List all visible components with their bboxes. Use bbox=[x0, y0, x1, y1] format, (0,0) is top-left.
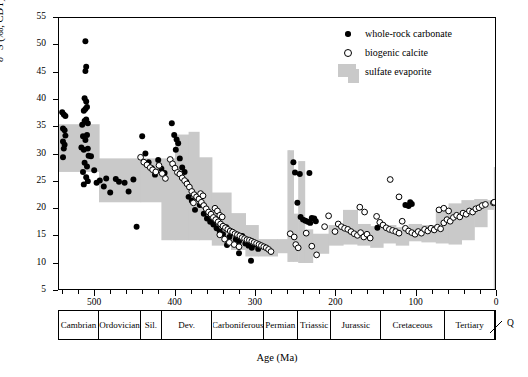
x-axis-tick-mark bbox=[142, 290, 143, 294]
evaporite-vertical-bar bbox=[494, 167, 495, 289]
period-cell-cretaceous: Cretaceous bbox=[381, 311, 444, 339]
data-point-filled bbox=[409, 201, 415, 207]
data-point-filled bbox=[81, 108, 87, 114]
x-axis-tick-mark bbox=[223, 290, 224, 294]
data-point-open bbox=[483, 202, 489, 208]
data-point-filled bbox=[290, 159, 296, 165]
period-cell-tertiary: Tertiary bbox=[445, 311, 496, 339]
x-axis-tick-mark bbox=[287, 290, 288, 294]
data-point-filled bbox=[91, 167, 97, 173]
y-axis-label-suffix: S (‰, CDT) bbox=[0, 0, 5, 50]
data-point-filled bbox=[139, 133, 145, 139]
period-cell-jurassic: Jurassic bbox=[331, 311, 381, 339]
data-point-filled bbox=[82, 137, 88, 143]
x-axis-tick-mark bbox=[126, 290, 127, 294]
data-point-filled bbox=[81, 147, 87, 153]
data-point-open bbox=[362, 209, 368, 215]
x-axis-tick-mark bbox=[94, 290, 95, 296]
data-point-filled bbox=[306, 170, 312, 176]
data-point-open bbox=[399, 218, 405, 224]
period-cell-dev: Dev. bbox=[162, 311, 213, 339]
data-point-filled bbox=[192, 207, 198, 213]
figure-root: δ34S (‰, CDT) 510152025303540455055 5004… bbox=[0, 0, 528, 377]
data-point-filled bbox=[134, 224, 140, 230]
data-point-open bbox=[326, 213, 332, 219]
y-axis-tick-label: 20 bbox=[16, 203, 46, 213]
data-point-filled bbox=[177, 155, 183, 161]
data-point-open bbox=[374, 213, 380, 219]
evaporite-band-segment bbox=[461, 200, 474, 240]
y-axis-tick-label: 50 bbox=[16, 39, 46, 49]
y-axis-tick-label: 5 bbox=[16, 285, 46, 295]
x-axis-tick-mark bbox=[448, 290, 449, 294]
x-axis-label: Age (Ma) bbox=[217, 352, 337, 363]
data-point-open bbox=[156, 163, 162, 169]
data-point-open bbox=[200, 193, 206, 199]
x-axis-tick-mark bbox=[255, 290, 256, 296]
evaporite-band bbox=[59, 124, 495, 263]
data-point-filled bbox=[116, 179, 122, 185]
x-axis-tick-mark bbox=[367, 290, 368, 294]
period-cell-ordovician: Ordovician bbox=[99, 311, 141, 339]
data-point-filled bbox=[61, 146, 67, 152]
data-point-open bbox=[357, 204, 363, 210]
y-axis-tick-label: 35 bbox=[16, 121, 46, 131]
x-axis-tick-mark bbox=[480, 290, 481, 294]
x-axis-tick-mark bbox=[271, 290, 272, 294]
data-point-filled bbox=[62, 113, 68, 119]
legend-label: biogenic calcite bbox=[365, 47, 428, 58]
data-point-filled bbox=[82, 38, 88, 44]
data-point-filled bbox=[173, 147, 179, 153]
x-axis-tick-label: 400 bbox=[155, 298, 195, 308]
data-point-filled bbox=[82, 68, 88, 74]
x-axis-tick-mark bbox=[239, 290, 240, 294]
x-axis-tick-mark bbox=[335, 290, 336, 296]
x-axis-tick-mark bbox=[400, 290, 401, 294]
y-axis-label: δ34S (‰, CDT) bbox=[0, 0, 5, 120]
period-cell-sil: Sil. bbox=[141, 311, 162, 339]
x-axis-tick-label: 500 bbox=[74, 298, 114, 308]
data-point-filled bbox=[60, 154, 66, 160]
y-axis-tick-label: 45 bbox=[16, 67, 46, 77]
x-axis-tick-label: 0 bbox=[476, 298, 516, 308]
data-point-filled bbox=[107, 190, 113, 196]
data-point-open bbox=[191, 200, 197, 206]
data-point-filled bbox=[83, 98, 89, 104]
x-axis-tick-mark bbox=[432, 290, 433, 294]
data-point-filled bbox=[130, 177, 136, 183]
grey-band-icon bbox=[337, 60, 363, 88]
data-point-filled bbox=[236, 250, 242, 256]
data-point-filled bbox=[81, 181, 87, 187]
data-point-open bbox=[236, 244, 242, 250]
data-point-open bbox=[153, 169, 159, 175]
data-point-filled bbox=[85, 120, 91, 126]
data-point-open bbox=[217, 232, 223, 238]
y-axis-tick-label: 55 bbox=[16, 12, 46, 22]
data-point-filled bbox=[155, 157, 161, 163]
data-point-filled bbox=[122, 180, 128, 186]
data-point-open bbox=[396, 194, 402, 200]
data-point-filled bbox=[169, 120, 175, 126]
data-point-open bbox=[367, 235, 373, 241]
x-axis-tick-mark bbox=[207, 290, 208, 294]
evaporite-band-segment bbox=[313, 234, 330, 254]
data-point-filled bbox=[297, 171, 303, 177]
y-axis-tick-label: 40 bbox=[16, 94, 46, 104]
open-circle-icon bbox=[344, 49, 352, 57]
grey-band-icon-part-b bbox=[348, 69, 359, 83]
period-cell-cambrian: Cambrian bbox=[59, 311, 99, 339]
data-point-open bbox=[396, 230, 402, 236]
data-point-open bbox=[163, 176, 169, 182]
x-axis-tick-mark bbox=[383, 290, 384, 294]
data-point-open bbox=[491, 199, 495, 205]
data-point-filled bbox=[80, 169, 86, 175]
filled-circle-icon bbox=[345, 31, 351, 37]
data-point-filled bbox=[84, 164, 90, 170]
data-point-filled bbox=[79, 122, 85, 128]
period-cell-carboniferous: Carboniferous bbox=[213, 311, 264, 339]
x-axis-tick-mark bbox=[158, 290, 159, 294]
y-axis-tick-label: 10 bbox=[16, 258, 46, 268]
data-point-filled bbox=[313, 218, 319, 224]
data-point-filled bbox=[62, 133, 68, 139]
data-point-open bbox=[438, 226, 444, 232]
